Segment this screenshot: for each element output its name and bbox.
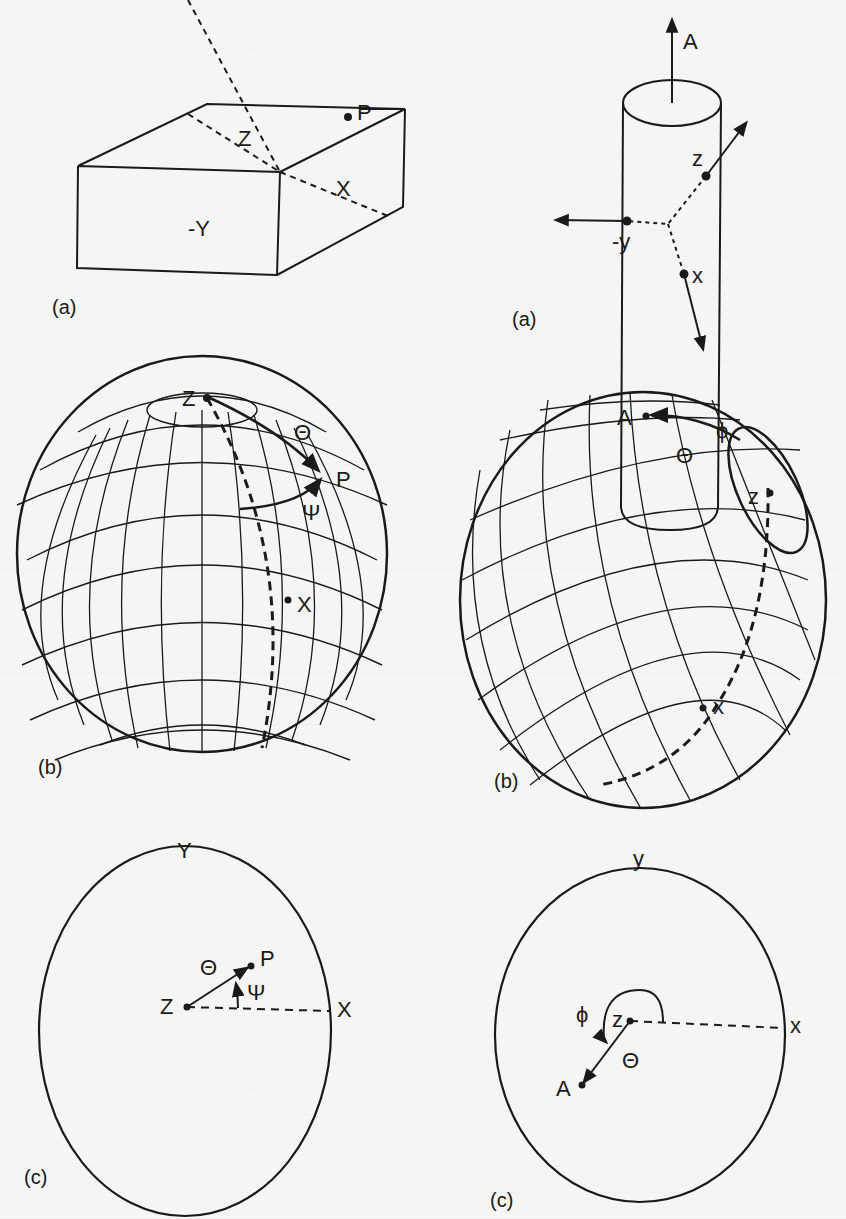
cylinder-label-x: x bbox=[692, 263, 703, 288]
sphere-left-label-theta: Θ bbox=[294, 420, 311, 445]
panel-label-right-a: (a) bbox=[512, 308, 536, 330]
point-z-marker bbox=[702, 172, 711, 181]
sphere-left-label-z: Z bbox=[182, 386, 195, 411]
cylinder-label-neg-y: -y bbox=[612, 229, 630, 254]
point-neg-y-marker bbox=[623, 217, 632, 226]
proj-right-label-a: A bbox=[556, 1076, 571, 1101]
sphere-right-z-marker bbox=[767, 490, 774, 497]
point-x-marker bbox=[680, 270, 689, 279]
sphere-right-label-phi: ϕ bbox=[716, 418, 728, 443]
cylinder-label-z: z bbox=[692, 146, 703, 171]
proj-right-label-y: y bbox=[633, 846, 644, 871]
panel-label-right-b: (b) bbox=[494, 770, 518, 792]
proj-left-label-z: Z bbox=[160, 994, 173, 1019]
proj-left-p-marker bbox=[248, 963, 255, 970]
graticule-sphere-left bbox=[17, 356, 387, 760]
panel-label-left-c: (c) bbox=[24, 1166, 47, 1188]
sphere-right-label-x: x bbox=[713, 694, 724, 719]
proj-right-a-marker bbox=[579, 1082, 586, 1089]
proj-left-label-p: P bbox=[260, 946, 275, 971]
box-label-neg-y: -Y bbox=[188, 216, 210, 241]
sphere-right-label-z: z bbox=[748, 484, 759, 509]
sphere-right-label-theta: Θ bbox=[676, 443, 693, 468]
panel-label-left-b: (b) bbox=[38, 756, 62, 778]
sphere-right-label-a: A bbox=[617, 405, 632, 430]
sphere-right-x-marker bbox=[700, 705, 707, 712]
sphere-right-a-marker bbox=[643, 413, 650, 420]
box-label-p: P bbox=[357, 100, 372, 125]
sphere-left-x-marker bbox=[285, 597, 292, 604]
proj-right-z-marker bbox=[627, 1018, 634, 1025]
proj-left-label-psi: Ψ bbox=[247, 980, 265, 1005]
box-label-x: X bbox=[336, 176, 351, 201]
cylinder-label-a: A bbox=[683, 29, 698, 54]
proj-right-label-phi: ϕ bbox=[576, 1002, 588, 1027]
sphere-left-label-psi: Ψ bbox=[302, 500, 320, 525]
sphere-left-z-marker bbox=[203, 394, 211, 402]
panel-label-right-c: (c) bbox=[490, 1189, 513, 1211]
proj-left-label-theta: Θ bbox=[200, 955, 217, 980]
projection-circle-right bbox=[495, 868, 785, 1202]
proj-left-label-y: Y bbox=[177, 838, 192, 863]
graticule-sphere-right bbox=[460, 392, 826, 808]
projection-circle-left bbox=[39, 846, 331, 1216]
panel-label-left-a: (a) bbox=[52, 296, 76, 318]
proj-right-label-x: x bbox=[790, 1013, 801, 1038]
proj-left-label-x: X bbox=[337, 997, 352, 1022]
proj-right-label-z: z bbox=[612, 1007, 623, 1032]
cylinder-diagram bbox=[556, 20, 746, 530]
scanned-page: P Z X -Y (a) A z -y x (a) bbox=[0, 0, 846, 1219]
point-p-marker bbox=[344, 113, 352, 121]
sphere-left-label-x: X bbox=[297, 592, 312, 617]
sphere-left-label-p: P bbox=[336, 467, 351, 492]
proj-right-label-theta: Θ bbox=[622, 1048, 639, 1073]
figure-canvas: P Z X -Y (a) A z -y x (a) bbox=[0, 0, 846, 1219]
box-label-z: Z bbox=[238, 126, 251, 151]
proj-left-z-marker bbox=[184, 1004, 191, 1011]
